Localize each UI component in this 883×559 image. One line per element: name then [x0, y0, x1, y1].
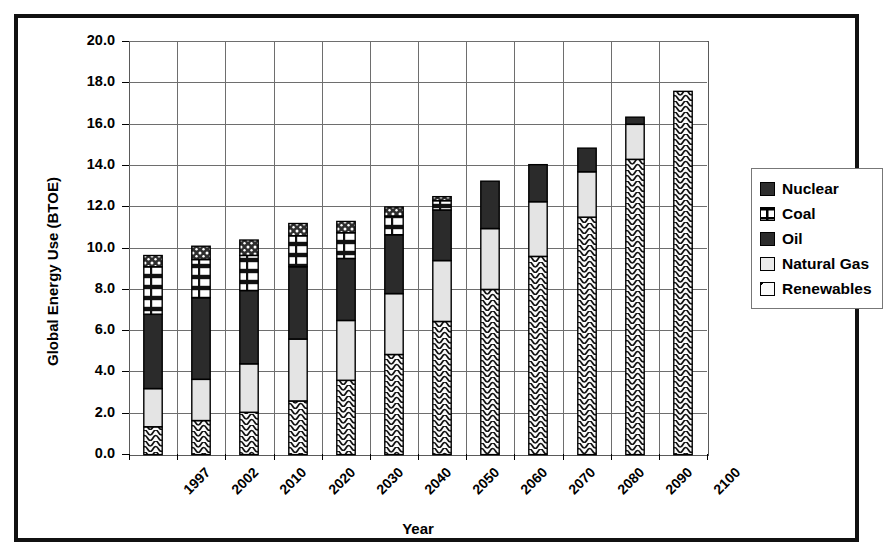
- legend-label: Renewables: [782, 280, 872, 298]
- bar-2020[interactable]: [288, 222, 308, 455]
- segment-oil[interactable]: [578, 148, 596, 172]
- segment-natural-gas[interactable]: [529, 202, 547, 257]
- y-tick-mark: [122, 124, 129, 125]
- bar-2070[interactable]: [528, 163, 548, 455]
- y-tick-mark: [122, 165, 129, 166]
- segment-oil[interactable]: [529, 165, 547, 202]
- x-gridline: [659, 41, 660, 454]
- bar-2090[interactable]: [625, 115, 645, 455]
- bar-2030[interactable]: [336, 220, 356, 455]
- segment-natural-gas[interactable]: [626, 124, 644, 159]
- segment-renewables[interactable]: [144, 427, 162, 455]
- segment-oil[interactable]: [289, 267, 307, 339]
- segment-coal[interactable]: [240, 256, 258, 291]
- x-tick-mark: [177, 454, 178, 460]
- x-gridline: [177, 41, 178, 454]
- y-tick-mark: [122, 248, 129, 249]
- segment-nuclear[interactable]: [240, 240, 258, 255]
- segment-renewables[interactable]: [192, 421, 210, 455]
- segment-renewables[interactable]: [529, 257, 547, 455]
- segment-coal[interactable]: [385, 216, 403, 234]
- segment-natural-gas[interactable]: [289, 339, 307, 401]
- segment-nuclear[interactable]: [385, 207, 403, 216]
- x-gridline: [370, 41, 371, 454]
- segment-natural-gas[interactable]: [192, 379, 210, 420]
- segment-oil[interactable]: [192, 298, 210, 379]
- y-tick-label: 16.0: [59, 115, 115, 131]
- y-tick-label: 20.0: [59, 32, 115, 48]
- bar-2100[interactable]: [673, 90, 693, 455]
- x-tick-mark: [611, 454, 612, 460]
- segment-natural-gas[interactable]: [578, 172, 596, 217]
- segment-natural-gas[interactable]: [240, 364, 258, 412]
- legend-item-nuclear[interactable]: Nuclear: [760, 176, 872, 201]
- x-tick-label: 2100: [710, 464, 743, 497]
- x-tick-label: 2090: [662, 464, 695, 497]
- segment-natural-gas[interactable]: [144, 389, 162, 427]
- segment-renewables[interactable]: [289, 401, 307, 454]
- segment-coal[interactable]: [337, 233, 355, 259]
- bar-1997[interactable]: [143, 254, 163, 455]
- segment-renewables[interactable]: [337, 380, 355, 454]
- x-gridline: [611, 41, 612, 454]
- legend-swatch-icon: [760, 232, 775, 246]
- x-tick-label: 2070: [566, 464, 599, 497]
- segment-nuclear[interactable]: [337, 221, 355, 232]
- x-tick-mark: [225, 454, 226, 460]
- segment-renewables[interactable]: [385, 355, 403, 455]
- segment-coal[interactable]: [433, 201, 451, 210]
- segment-nuclear[interactable]: [144, 256, 162, 267]
- chart-legend: NuclearCoalOilNatural GasRenewables: [751, 168, 883, 309]
- segment-oil[interactable]: [626, 117, 644, 124]
- x-tick-mark: [370, 454, 371, 460]
- segment-renewables[interactable]: [240, 412, 258, 454]
- y-tick-label: 12.0: [59, 197, 115, 213]
- segment-natural-gas[interactable]: [433, 261, 451, 322]
- bar-2040[interactable]: [384, 205, 404, 455]
- x-tick-label: 2040: [421, 464, 454, 497]
- bar-2002[interactable]: [191, 244, 211, 455]
- legend-swatch-icon: [760, 182, 775, 196]
- x-tick-label: 2050: [469, 464, 502, 497]
- segment-oil[interactable]: [481, 181, 499, 228]
- segment-natural-gas[interactable]: [337, 321, 355, 381]
- segment-renewables[interactable]: [481, 290, 499, 455]
- segment-nuclear[interactable]: [192, 246, 210, 259]
- figure-frame: Global Energy Use (BTOE) 0.02.04.06.08.0…: [14, 14, 859, 542]
- segment-coal[interactable]: [192, 260, 210, 298]
- x-tick-mark: [659, 454, 660, 460]
- segment-coal[interactable]: [289, 236, 307, 267]
- x-tick-label: 2060: [517, 464, 550, 497]
- segment-renewables[interactable]: [626, 160, 644, 455]
- legend-item-coal[interactable]: Coal: [760, 201, 872, 226]
- segment-coal[interactable]: [144, 267, 162, 314]
- x-tick-label: 2080: [614, 464, 647, 497]
- segment-natural-gas[interactable]: [481, 229, 499, 290]
- segment-nuclear[interactable]: [289, 224, 307, 236]
- segment-nuclear[interactable]: [433, 197, 451, 201]
- segment-renewables[interactable]: [578, 217, 596, 454]
- segment-oil[interactable]: [433, 210, 451, 260]
- bar-2060[interactable]: [480, 179, 500, 455]
- segment-oil[interactable]: [144, 314, 162, 388]
- segment-renewables[interactable]: [674, 91, 692, 454]
- x-tick-mark: [466, 454, 467, 460]
- bar-2080[interactable]: [577, 146, 597, 455]
- x-gridline: [466, 41, 467, 454]
- segment-oil[interactable]: [337, 259, 355, 321]
- segment-oil[interactable]: [385, 235, 403, 294]
- x-tick-mark: [274, 454, 275, 460]
- y-tick-label: 6.0: [59, 321, 115, 337]
- y-tick-label: 2.0: [59, 404, 115, 420]
- x-tick-label: 2010: [277, 464, 310, 497]
- x-tick-mark: [129, 454, 130, 460]
- legend-item-natural-gas[interactable]: Natural Gas: [760, 251, 872, 276]
- bar-2010[interactable]: [239, 238, 259, 455]
- segment-natural-gas[interactable]: [385, 294, 403, 355]
- legend-swatch-icon: [760, 257, 775, 271]
- bar-2050[interactable]: [432, 195, 452, 455]
- legend-item-oil[interactable]: Oil: [760, 226, 872, 251]
- segment-renewables[interactable]: [433, 322, 451, 455]
- segment-oil[interactable]: [240, 291, 258, 364]
- legend-item-renewables[interactable]: Renewables: [760, 276, 872, 301]
